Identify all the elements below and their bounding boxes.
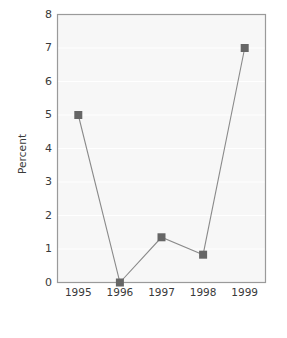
- plot-area: [0, 0, 287, 338]
- data-point-marker: [116, 279, 124, 287]
- data-point-marker: [74, 111, 82, 119]
- chart-container: Percent 012345678 19951996199719981999: [0, 0, 287, 338]
- data-point-marker: [199, 251, 207, 259]
- data-point-marker: [158, 233, 166, 241]
- data-point-marker: [241, 44, 249, 52]
